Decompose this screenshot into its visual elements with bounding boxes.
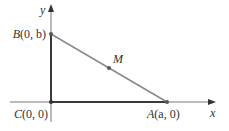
label-m: M: [112, 52, 124, 66]
x-axis-arrow-icon: [208, 99, 216, 105]
label-b-coords: (0, b): [20, 27, 46, 41]
triangle-diagram: y x B(0, b) C(0, 0) A(a, 0) M: [0, 0, 229, 131]
point-b: [49, 32, 53, 36]
label-b: B(0, b): [13, 27, 46, 41]
x-axis-label: x: [209, 106, 216, 120]
label-a: A(a, 0): [146, 107, 180, 121]
label-a-coords: (a, 0): [154, 107, 179, 121]
point-a: [165, 100, 169, 104]
y-axis-arrow-icon: [48, 4, 54, 12]
label-c: C(0, 0): [14, 107, 48, 121]
point-m: [107, 66, 111, 70]
point-c: [49, 100, 53, 104]
label-c-coords: (0, 0): [22, 107, 48, 121]
y-axis-label: y: [39, 3, 46, 17]
